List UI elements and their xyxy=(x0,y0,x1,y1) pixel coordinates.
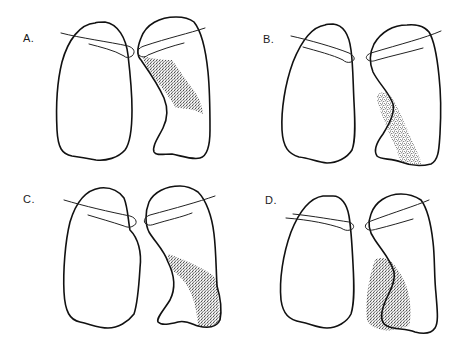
right-bronchus-line xyxy=(365,200,429,230)
left-lung-outline xyxy=(57,22,132,160)
panel-d-drawing xyxy=(229,172,458,344)
panel-c: C. xyxy=(0,172,229,344)
right-bronchus-line xyxy=(366,31,441,61)
opacity-region xyxy=(168,254,220,327)
left-lung-outline xyxy=(282,24,355,163)
panel-a-drawing xyxy=(0,0,229,172)
left-lung-outline xyxy=(280,196,353,328)
left-bronchus-line xyxy=(291,36,354,62)
lung-diagram-figure: A. B. C. xyxy=(0,0,458,344)
panel-a: A. xyxy=(0,0,229,172)
opacity-region xyxy=(377,92,422,164)
right-bronchus-line xyxy=(138,28,205,57)
left-lung-outline xyxy=(64,188,141,328)
panel-d: D. xyxy=(229,172,458,344)
panel-b: B. xyxy=(229,0,458,172)
opacity-region xyxy=(142,56,203,114)
panel-c-drawing xyxy=(0,172,229,344)
panel-b-drawing xyxy=(229,0,458,172)
